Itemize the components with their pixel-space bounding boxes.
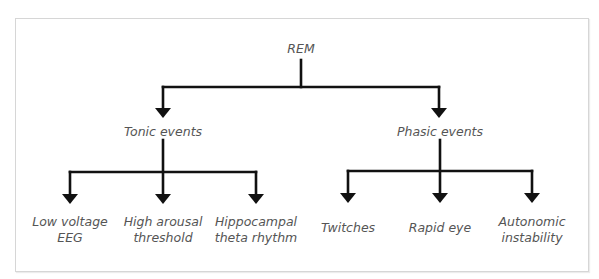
- leaf-line1: Hippocampal: [215, 214, 298, 230]
- arrow-head-icon: [62, 194, 78, 204]
- arrow-head-icon: [155, 108, 171, 118]
- leaf-twitches: Twitches: [321, 220, 375, 236]
- arrow-head-icon: [432, 193, 448, 203]
- leaf-line1: Low voltage: [32, 214, 108, 230]
- leaf-hippocampal-theta-rhythm: Hippocampal theta rhythm: [215, 214, 298, 246]
- phasic-events-label: Phasic events: [397, 124, 483, 140]
- root-node-label: REM: [287, 41, 314, 57]
- leaf-line2: EEG: [32, 230, 108, 246]
- leaf-line1: Twitches: [321, 220, 375, 236]
- leaf-autonomic-instability: Autonomic instability: [498, 214, 565, 246]
- leaf-low-voltage-eeg: Low voltage EEG: [32, 214, 108, 246]
- leaf-line2: instability: [498, 230, 565, 246]
- leaf-rapid-eye: Rapid eye: [409, 220, 471, 236]
- leaf-line1: Rapid eye: [409, 220, 471, 236]
- arrow-head-icon: [431, 108, 447, 118]
- arrow-head-icon: [155, 194, 171, 204]
- leaf-line2: theta rhythm: [215, 230, 298, 246]
- leaf-line2: threshold: [124, 230, 203, 246]
- tonic-events-label: Tonic events: [124, 124, 202, 140]
- arrow-head-icon: [340, 193, 356, 203]
- arrow-head-icon: [524, 193, 540, 203]
- arrow-head-icon: [248, 194, 264, 204]
- leaf-line1: High arousal: [124, 214, 203, 230]
- arrowheads: [62, 108, 540, 204]
- leaf-line1: Autonomic: [498, 214, 565, 230]
- leaf-high-arousal-threshold: High arousal threshold: [124, 214, 203, 246]
